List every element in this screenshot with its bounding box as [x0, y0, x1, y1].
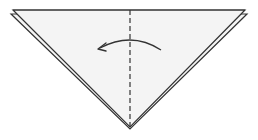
diagram-svg: [0, 0, 258, 140]
front-layer-triangle: [13, 10, 245, 127]
origami-diagram: Triangle (folded square) with vertical v…: [0, 0, 258, 140]
